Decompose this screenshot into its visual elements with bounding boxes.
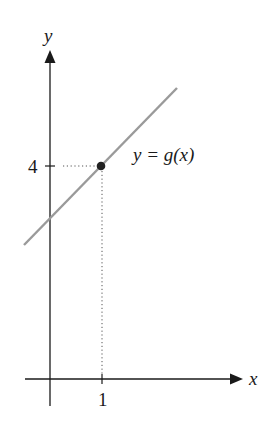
x-axis-arrowhead [230, 374, 243, 385]
x-tick-label-1: 1 [98, 389, 108, 410]
y-tick-label-4: 4 [28, 156, 38, 177]
graph: y x 4 1 y = g(x) [0, 0, 280, 432]
marked-point [97, 162, 106, 171]
y-axis-arrowhead [45, 50, 56, 63]
x-axis-label: x [248, 368, 258, 389]
function-label: y = g(x) [131, 144, 194, 166]
y-axis-label: y [42, 25, 53, 46]
